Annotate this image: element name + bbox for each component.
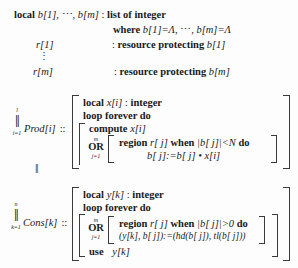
producer-region-guard-line: region r[ j] when |b[ j]|<N do	[119, 138, 250, 149]
buffer-declaration-line: local b[1], ⋯, b[m] : list of integer	[14, 10, 166, 21]
producer-double-colon: ::	[60, 123, 66, 134]
buffer-type: list of integer	[107, 9, 166, 20]
consumer-body-bracket-right	[283, 187, 290, 261]
producer-body-bracket-right	[283, 95, 290, 169]
consumer-header: Cons[k] ::	[23, 213, 67, 229]
producer-region-bracket-left	[108, 135, 114, 163]
buffer-names-first: b[1],	[38, 9, 59, 20]
consumer-loop-body-bracket-right	[272, 214, 278, 257]
consumer-do-keyword: do	[237, 218, 248, 229]
consumer-process-name: Cons[k]	[23, 217, 57, 228]
consumer-or-lower-bound: j=1	[86, 234, 106, 240]
producer-local-colon: :	[125, 97, 128, 108]
consumer-loop-body-bracket-left	[79, 214, 85, 257]
consumer-region-guard-line: region r[ j] when |b[ j]|>0 do	[119, 219, 248, 230]
producer-parallel-quantifier: l ‖ i=1	[9, 107, 25, 136]
consumer-region-resource: r[ j]	[150, 218, 168, 229]
producer-local-declaration: local x[i] : integer	[83, 98, 162, 109]
producer-when-keyword: when	[170, 137, 194, 148]
producer-compute-variable: x[i]	[130, 123, 146, 134]
resource-protecting-keyword-first: resource protecting	[118, 39, 205, 50]
consumer-loop-statement: loop forever do	[83, 203, 151, 214]
producer-region-body: b[ j]:=b[ j] • x[i]	[147, 151, 220, 162]
producer-loop-statement: loop forever do	[83, 111, 151, 122]
producer-local-type: integer	[131, 97, 163, 108]
consumer-use-keyword: use	[89, 246, 104, 257]
producer-process-name: Prod[i]	[24, 123, 56, 134]
producer-region-resource: r[ j]	[150, 137, 168, 148]
consumer-local-declaration: local y[k] : integer	[83, 190, 164, 201]
buffer-where-line: where b[1]=Λ, ⋯, b[m]=Λ	[113, 25, 231, 36]
or-operator-icon: OR	[86, 223, 106, 234]
consumer-body-bracket-left	[72, 187, 79, 261]
producer-body-bracket-left	[72, 95, 79, 169]
pseudocode-figure: local b[1], ⋯, b[m] : list of integer wh…	[0, 0, 298, 268]
parallel-composition-icon: ‖	[9, 113, 25, 130]
consumer-double-colon: ::	[61, 217, 67, 228]
resource-vertical-dots: ⋮	[39, 52, 49, 59]
producer-local-variable: x[i]	[107, 97, 123, 108]
process-composition-separator: ‖	[35, 161, 38, 177]
resource-last-name: r[m]	[33, 67, 53, 78]
local-keyword: local	[14, 9, 35, 20]
resource-last-target: b[m]	[209, 66, 230, 77]
producer-do-keyword: do	[238, 137, 249, 148]
consumer-local-keyword: local	[83, 189, 104, 200]
producer-compute-keyword: compute	[89, 123, 128, 134]
where-ellipsis: ⋯,	[180, 24, 194, 35]
resource-first-identifier: r[1]	[36, 39, 54, 50]
consumer-region-bracket-right	[259, 216, 265, 244]
consumer-use-variable: y[k]	[112, 246, 130, 257]
consumer-local-type: integer	[132, 189, 164, 200]
producer-or-quantifier: m OR j=1	[86, 136, 106, 159]
consumer-use-statement: use y[k]	[89, 247, 130, 258]
producer-header: Prod[i] ::	[24, 119, 66, 135]
buffer-colon: :	[101, 9, 104, 20]
parallel-composition-icon: ‖	[8, 207, 24, 224]
where-keyword: where	[113, 24, 140, 35]
buffer-names-last: b[m]	[78, 9, 99, 20]
consumer-region-bracket-left	[108, 216, 114, 244]
consumer-guard-condition: |b[ j]|>0	[197, 218, 234, 229]
where-init-last: b[m]=Λ	[196, 24, 230, 35]
consumer-parallel-quantifier: n ‖ k=1	[8, 201, 24, 230]
producer-loop-body-bracket	[79, 123, 85, 165]
or-operator-icon: OR	[86, 142, 106, 153]
consumer-when-keyword: when	[170, 218, 194, 229]
consumer-region-keyword: region	[119, 218, 147, 229]
consumer-or-quantifier: m OR j=1	[86, 217, 106, 240]
producer-region-keyword: region	[119, 137, 147, 148]
buffer-ellipsis: ⋯,	[62, 9, 76, 20]
resource-first-name: r[1]	[36, 40, 54, 51]
producer-quantifier-lower-bound: i=1	[9, 130, 25, 136]
producer-guard-condition: |b[ j]|<N	[197, 137, 236, 148]
consumer-region-body: (y[k], b[ j]):=(hd(b[ j]), tl(b[ j]))	[119, 232, 245, 242]
producer-local-keyword: local	[83, 97, 104, 108]
resource-protecting-keyword-last: resource protecting	[120, 66, 207, 77]
resource-first-declaration: : resource protecting b[1]	[112, 40, 225, 51]
producer-compute-statement: compute x[i]	[89, 124, 146, 135]
resource-first-colon: :	[112, 39, 115, 50]
producer-or-lower-bound: j=1	[86, 153, 106, 159]
where-init-first: b[1]=Λ,	[143, 24, 178, 35]
resource-first-target: b[1]	[207, 39, 226, 50]
resource-last-declaration: : resource protecting b[m]	[114, 67, 230, 78]
resource-last-colon: :	[114, 66, 117, 77]
resource-last-identifier: r[m]	[33, 66, 53, 77]
consumer-local-variable: y[k]	[107, 189, 125, 200]
consumer-local-colon: :	[127, 189, 130, 200]
consumer-quantifier-lower-bound: k=1	[8, 224, 24, 230]
producer-region-bracket-right	[271, 135, 277, 163]
